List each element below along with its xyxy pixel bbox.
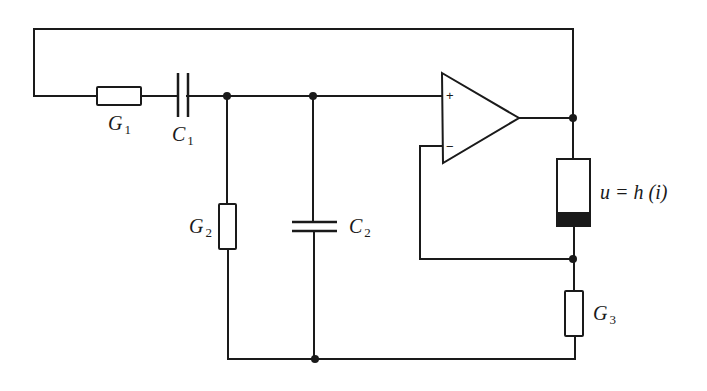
label-g1: G1 [108, 112, 131, 137]
nonlinear-element-band [557, 212, 590, 227]
junction-dot [311, 355, 319, 363]
resistor-g2 [219, 204, 236, 249]
junction-dot [569, 255, 577, 263]
plus-input-sign: + [446, 88, 454, 103]
circuit-diagram: + − G1 C1 G2 C2 G3 u = h (i) [0, 0, 707, 391]
minus-input-sign: − [446, 139, 454, 154]
resistor-g1 [97, 87, 141, 105]
resistor-g3 [565, 291, 583, 336]
label-g2: G2 [189, 215, 212, 240]
label-g3: G3 [593, 302, 616, 327]
label-c2: C2 [349, 215, 371, 240]
label-c1: C1 [172, 123, 194, 148]
label-nonlinear: u = h (i) [600, 181, 668, 204]
bottom-ground-wire [228, 336, 575, 359]
